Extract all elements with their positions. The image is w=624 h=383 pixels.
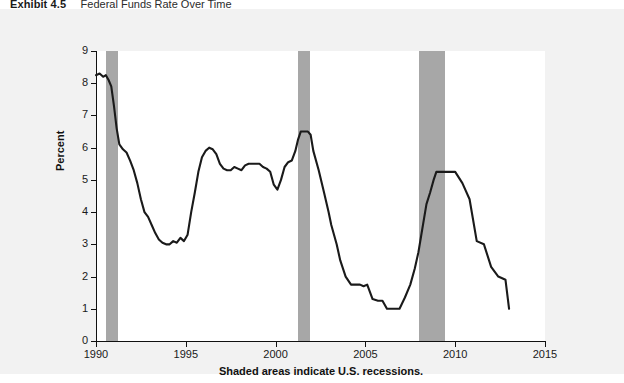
exhibit-title: Federal Funds Rate Over Time: [81, 0, 232, 8]
x-tick-label: 2000: [251, 349, 301, 360]
y-tick-label: 8: [48, 77, 88, 88]
x-tick: [96, 342, 97, 347]
exhibit-label: Exhibit 4.5: [10, 0, 66, 8]
series-federal-funds-rate: [96, 51, 545, 342]
y-tick-label: 2: [48, 271, 88, 282]
y-tick-label: 0: [48, 335, 88, 346]
x-tick: [186, 342, 187, 347]
x-tick-label: 1995: [161, 349, 211, 360]
x-tick-label: 1990: [71, 349, 121, 360]
x-tick: [455, 342, 456, 347]
y-tick-label: 1: [48, 303, 88, 314]
y-axis-title: Percent: [54, 131, 66, 171]
x-tick-label: 2005: [340, 349, 390, 360]
y-tick-label: 3: [48, 238, 88, 249]
x-tick: [276, 342, 277, 347]
y-tick-label: 4: [48, 206, 88, 217]
x-tick: [365, 342, 366, 347]
recession-note: Shaded areas indicate U.S. recessions.: [96, 365, 546, 377]
x-tick: [545, 342, 546, 347]
y-tick-label: 9: [48, 45, 88, 56]
x-tick-label: 2010: [430, 349, 480, 360]
exhibit-header: Exhibit 4.5 Federal Funds Rate Over Time: [10, 0, 232, 8]
series-line: [96, 74, 509, 309]
x-tick-label: 2015: [520, 349, 570, 360]
figure-panel: 0123456789 199019952000200520102015 Perc…: [0, 9, 624, 374]
y-tick-label: 7: [48, 109, 88, 120]
y-tick-label: 5: [48, 174, 88, 185]
